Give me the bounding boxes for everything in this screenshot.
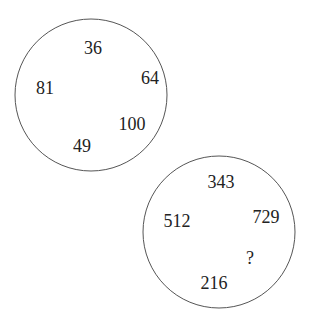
number-36: 36 xyxy=(84,38,102,58)
number-729: 729 xyxy=(253,207,280,227)
number-343: 343 xyxy=(208,172,235,192)
number-puzzle-diagram: 36 64 81 100 49 343 512 729 ? 216 xyxy=(0,0,312,323)
number-512: 512 xyxy=(164,211,191,231)
number-64: 64 xyxy=(141,68,159,88)
number-100: 100 xyxy=(119,114,146,134)
number-81: 81 xyxy=(36,78,54,98)
unknown-question-mark: ? xyxy=(246,248,254,268)
number-49: 49 xyxy=(73,136,91,156)
number-216: 216 xyxy=(201,273,228,293)
